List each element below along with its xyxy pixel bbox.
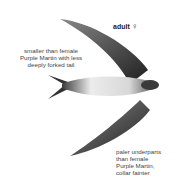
figure-title: adult♀ [113,22,138,31]
annotation-underparts: paler underparts than female Purple Mart… [116,148,176,176]
head [141,80,159,90]
annotation-size-tail: smaller than female Purple Martin with l… [8,47,94,68]
female-symbol-icon: ♀ [132,22,138,31]
